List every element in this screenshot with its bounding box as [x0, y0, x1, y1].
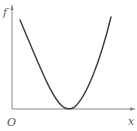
- function-curve: [20, 17, 111, 109]
- origin-label: O: [7, 116, 16, 129]
- y-axis-arrow-icon: [10, 4, 13, 10]
- x-axis-arrow-icon: [130, 107, 136, 110]
- graph-canvas: f O x: [0, 0, 137, 131]
- x-axis-label: x: [128, 115, 135, 128]
- function-graph: f O x: [0, 0, 137, 131]
- y-axis-label: f: [2, 6, 9, 19]
